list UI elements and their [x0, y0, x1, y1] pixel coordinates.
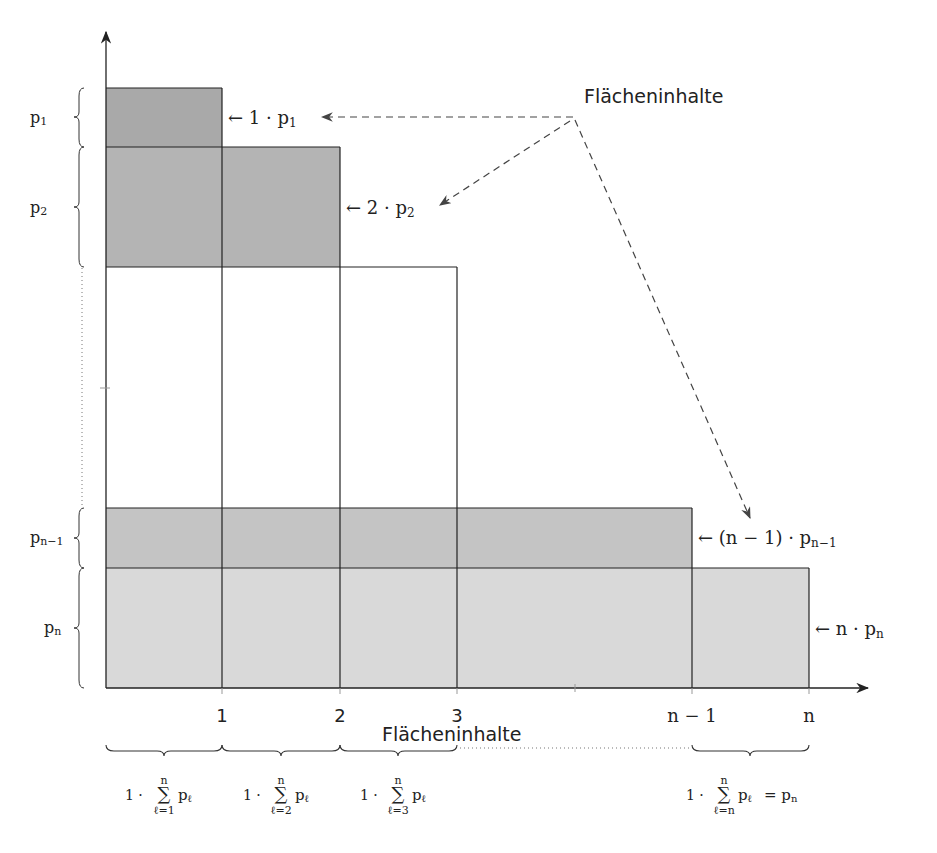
brace-p1	[74, 88, 84, 147]
brace-pn-1	[74, 508, 84, 568]
svg-text:n: n	[277, 774, 284, 787]
annotation-n-1-pn-1: ← (n − 1) · pn−1	[698, 527, 837, 550]
y-label-p1: p1	[30, 108, 47, 128]
svg-text:pℓ: pℓ	[412, 786, 426, 804]
bottom-brace-coln	[692, 745, 809, 756]
svg-text:1 ·: 1 ·	[125, 787, 143, 803]
svg-text:pℓ: pℓ	[295, 786, 309, 804]
x-axis-label: Flächeninhalte	[382, 723, 522, 745]
area-row-p1	[106, 88, 222, 147]
x-tick-1: 1	[216, 705, 227, 726]
y-label-pn-1: pn−1	[30, 528, 64, 548]
brace-pn	[74, 568, 84, 688]
bottom-braces	[106, 745, 809, 756]
dashed-arrows	[322, 117, 750, 518]
flaecheninhalte-label: Flächeninhalte	[584, 85, 724, 107]
svg-text:1 ·: 1 ·	[360, 787, 378, 803]
column-sum-2: 1 · ∑ n ℓ=2 pℓ	[243, 774, 309, 817]
area-row-p2	[106, 147, 340, 267]
svg-text:ℓ=2: ℓ=2	[270, 804, 291, 817]
bottom-brace-col2	[222, 745, 340, 756]
svg-text:n: n	[394, 774, 401, 787]
column-sum-3: 1 · ∑ n ℓ=3 pℓ	[360, 774, 426, 817]
column-sums: 1 · ∑ n ℓ=1 pℓ 1 · ∑ n ℓ=2 pℓ 1 · ∑ n ℓ=…	[125, 774, 798, 817]
svg-text:1 ·: 1 ·	[686, 787, 704, 803]
y-labels: p1 p2 pn−1 pn	[30, 108, 64, 638]
svg-text:ℓ=n: ℓ=n	[713, 804, 735, 817]
svg-text:pℓ: pℓ	[738, 786, 752, 804]
svg-text:n: n	[720, 774, 727, 787]
svg-text:ℓ=3: ℓ=3	[387, 804, 408, 817]
dashed-arrow-to-p2	[440, 121, 570, 205]
bottom-brace-col1	[106, 745, 222, 756]
column-sum-1: 1 · ∑ n ℓ=1 pℓ	[125, 774, 192, 817]
column-sum-n: 1 · ∑ n ℓ=n pℓ = pn	[686, 774, 798, 817]
annotation-1-p1: ← 1 · p1	[228, 107, 297, 130]
x-tick-n: n	[803, 705, 815, 726]
x-tick-n-1: n − 1	[667, 705, 717, 726]
annotation-2-p2: ← 2 · p2	[346, 197, 415, 220]
svg-text:1 ·: 1 ·	[243, 787, 261, 803]
svg-text:= pn: = pn	[764, 786, 798, 804]
svg-text:ℓ=1: ℓ=1	[153, 804, 174, 817]
bottom-brace-col3	[340, 745, 457, 756]
y-label-pn: pn	[44, 618, 61, 638]
dashed-arrow-to-pn-1	[575, 120, 750, 518]
area-row-pn-1	[106, 508, 692, 568]
brace-p2	[74, 147, 84, 267]
y-label-p2: p2	[30, 198, 47, 218]
svg-text:pℓ: pℓ	[178, 786, 192, 804]
left-braces	[74, 88, 84, 688]
x-tick-2: 2	[334, 705, 345, 726]
svg-text:n: n	[160, 774, 167, 787]
annotation-n-pn: ← n · pn	[815, 618, 884, 641]
area-diagram: p1 p2 pn−1 pn ← 1 · p1 ← 2 · p2 ← (n − 1…	[0, 0, 937, 853]
